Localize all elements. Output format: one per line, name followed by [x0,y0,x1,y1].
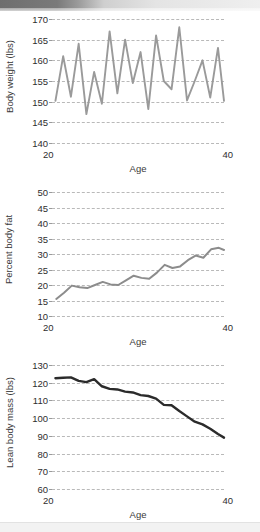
plot-area: 170165160155150145140 [52,19,224,143]
x-tick-label-min: 20 [43,149,54,160]
gridline [52,489,224,490]
y-tick-label: 140 [32,138,48,149]
y-tick-label: 110 [33,395,48,406]
x-tick-label-max: 40 [222,322,233,333]
y-tick-label: 80 [37,448,48,459]
x-axis-title: Age [52,336,224,347]
y-tick-label: 40 [37,218,48,229]
series-line [52,19,224,143]
page-footer-strip [0,522,260,532]
y-tick-label: 10 [37,311,48,322]
y-tick-label: 70 [37,466,48,477]
x-tick-label-max: 40 [222,149,233,160]
y-axis-title-text: Lean body mass (lbs) [4,377,15,468]
y-tick-label: 170 [32,14,48,25]
y-tick-label: 145 [32,117,48,128]
y-axis-title: Lean body mass (lbs) [2,357,16,487]
y-tick-label: 120 [32,377,48,388]
y-tick-label: 155 [32,76,48,87]
plot-area: 504540353025201510 [52,192,224,316]
y-axis-title-text: Percent body fat [4,214,15,283]
y-tick-label: 160 [32,55,48,66]
y-tick-mark [49,316,52,317]
y-tick-mark [49,143,52,144]
figure-page: · · · · · · · · · · · · Body weight (lbs… [0,0,260,532]
chart-stack: Body weight (lbs)17016516015515014514020… [0,11,260,530]
x-tick-label-min: 20 [43,322,54,333]
y-tick-label: 35 [37,233,48,244]
y-tick-label: 60 [37,484,48,495]
x-tick-label-max: 40 [222,495,233,506]
chart-body-weight: Body weight (lbs)17016516015515014514020… [0,11,260,184]
plot-area: 13012011010090807060 [52,365,224,489]
y-tick-label: 130 [32,360,48,371]
y-tick-label: 150 [32,96,48,107]
chart-lean-body-mass: Lean body mass (lbs)13012011010090807060… [0,357,260,530]
y-tick-label: 25 [37,264,48,275]
x-axis-title: Age [52,509,224,520]
y-axis-title-text: Body weight (lbs) [4,40,15,113]
chart-percent-body-fat: Percent body fat5045403530252015102040Ag… [0,184,260,357]
y-axis-title: Percent body fat [2,184,16,314]
y-tick-label: 165 [32,34,48,45]
y-tick-label: 90 [37,430,48,441]
y-tick-label: 50 [37,187,48,198]
y-tick-label: 30 [37,249,48,260]
series-line [52,365,224,489]
x-axis-labels: 2040 [52,149,224,163]
gridline [52,316,224,317]
x-tick-label-min: 20 [43,495,54,506]
y-tick-label: 15 [37,295,48,306]
y-tick-label: 100 [32,413,48,424]
x-axis-labels: 2040 [52,322,224,336]
y-tick-label: 20 [37,280,48,291]
x-axis-labels: 2040 [52,495,224,509]
y-tick-label: 45 [37,202,48,213]
banner-text: · · · · · · · · · · · · [70,0,156,4]
series-line [52,192,224,316]
y-tick-mark [49,489,52,490]
x-axis-title: Age [52,163,224,174]
gridline [52,143,224,144]
y-axis-title: Body weight (lbs) [2,11,16,141]
